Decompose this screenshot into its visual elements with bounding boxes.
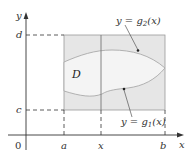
tick-label-b: b: [160, 140, 166, 151]
tick-label-a: a: [61, 140, 67, 151]
tick-label-x: x: [98, 140, 104, 151]
tick-label-c: c: [16, 104, 22, 115]
region-diagram: y x 0 d c a x b D y = g2(x) y = g1(x): [0, 0, 186, 161]
y-axis-arrow-icon: [24, 12, 29, 19]
lower-curve-label: y = g1(x): [120, 116, 166, 129]
y-axis-label: y: [15, 10, 22, 21]
origin-label: 0: [15, 140, 21, 151]
tick-label-d: d: [16, 29, 22, 40]
x-axis-label: x: [179, 139, 185, 150]
lower-curve-point: [123, 88, 126, 91]
upper-curve-point: [137, 49, 140, 52]
upper-curve-label: y = g2(x): [115, 15, 161, 28]
x-axis-arrow-icon: [177, 133, 184, 138]
region-label: D: [71, 68, 81, 81]
